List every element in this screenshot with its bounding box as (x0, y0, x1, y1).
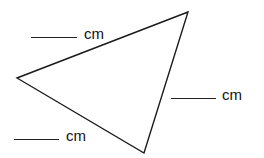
unit-label-bottom: cm (66, 128, 86, 143)
unit-label-top: cm (84, 26, 104, 41)
blank-line-bottom (14, 139, 59, 140)
blank-line-top (31, 37, 77, 38)
blank-line-right (171, 98, 216, 99)
unit-label-right: cm (222, 87, 242, 102)
triangle-diagram (0, 0, 264, 158)
